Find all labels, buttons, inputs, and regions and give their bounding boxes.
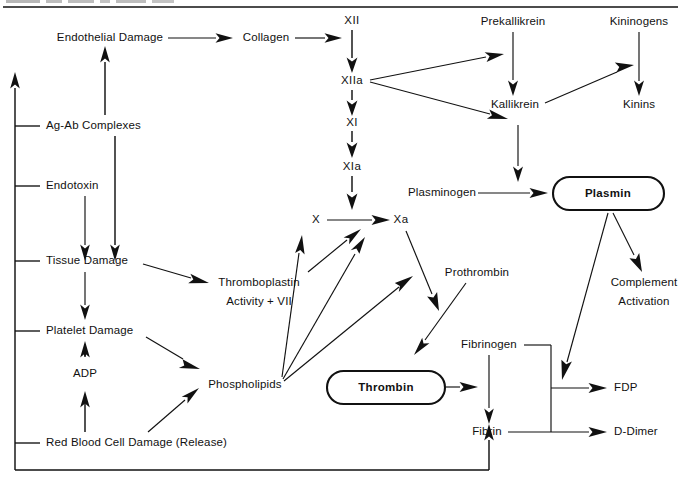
- edge-xi-to-xia: [347, 131, 358, 158]
- node-factor-xi: XI: [346, 116, 358, 128]
- edge-x-to-xa: [327, 215, 390, 225]
- edge-xii-to-xiia: [347, 30, 358, 73]
- node-collagen: Collagen: [243, 31, 290, 43]
- edge-xiia-to-prekallikrein: [370, 52, 504, 80]
- edge-thrombin-to-fibrinogen: [446, 382, 478, 392]
- node-factor-xia: XIa: [343, 160, 362, 172]
- node-endothelial-damage: Endothelial Damage: [57, 31, 163, 43]
- edge-xia-to-xa: [347, 176, 358, 210]
- edge-tissue-to-thromboplastin: [143, 264, 209, 283]
- cascade-diagram-canvas: Ag-Ab Complexes Endotoxin Tissue Damage …: [0, 0, 681, 498]
- node-kinins: Kinins: [623, 98, 655, 110]
- node-thromboplastin-line1: Thromboplastin: [218, 276, 299, 288]
- fdp-ddimer-bus: [508, 345, 607, 437]
- node-fdp: FDP: [614, 381, 638, 393]
- trigger-tick-marks: [15, 126, 40, 443]
- node-phospholipids: Phospholipids: [208, 378, 282, 390]
- edge-fibrinogen-to-fibrin: [484, 355, 494, 424]
- edge-tissue-to-platelet: [80, 272, 90, 320]
- edge-plasmin-to-complement: [613, 213, 642, 272]
- node-fibrin: Fibrin: [472, 425, 502, 437]
- edge-platelet-to-phospholipids: [146, 337, 200, 369]
- edge-kininogens-to-kinins: [634, 32, 644, 96]
- edge-agab-to-endothelial: [100, 46, 110, 115]
- edge-xiia-to-xi: [347, 90, 358, 116]
- edge-plasminogen-to-plasmin: [478, 188, 548, 198]
- edge-phospholipids-to-thrombin: [284, 276, 413, 381]
- edge-kallikrein-to-kininogens: [545, 63, 634, 104]
- node-kininogens: Kininogens: [610, 15, 669, 27]
- node-d-dimer: D-Dimer: [614, 425, 658, 437]
- node-plasminogen: Plasminogen: [408, 186, 476, 198]
- node-factor-xii: XII: [344, 14, 359, 26]
- node-factor-xa: Xa: [394, 213, 409, 225]
- edge-plasmin-to-fdp: [561, 213, 608, 380]
- node-plasmin: Plasmin: [585, 187, 631, 199]
- edge-rbc-to-phospholipids: [148, 388, 199, 432]
- edge-kallikrein-to-plasmin-activation: [513, 125, 523, 182]
- edge-xiia-to-kallikrein: [370, 82, 508, 119]
- node-factor-x: X: [312, 213, 320, 225]
- edge-agab-to-tissue: [110, 136, 120, 261]
- node-kallikrein: Kallikrein: [491, 98, 539, 110]
- node-adp: ADP: [73, 367, 97, 379]
- trigger-label-platelet-damage: Platelet Damage: [46, 324, 133, 336]
- edge-endothelial-to-collagen: [168, 33, 233, 43]
- node-fibrinogen: Fibrinogen: [461, 338, 517, 350]
- edge-xa-to-thrombin: [406, 231, 439, 311]
- node-thromboplastin-line2: Activity + VII: [226, 295, 292, 307]
- top-cropped-text-ghost: [6, 0, 174, 3]
- trigger-label-tissue-damage: Tissue Damage: [46, 254, 128, 266]
- edge-prothrombin-to-thrombin: [414, 283, 466, 355]
- edge-rbc-to-adp: [80, 391, 90, 432]
- trigger-label-ag-ab-complexes: Ag-Ab Complexes: [46, 119, 141, 131]
- node-complement-activation-line1: Complement: [611, 276, 678, 288]
- edge-adp-to-platelet: [80, 341, 90, 358]
- edge-endotoxin-to-tissue: [80, 196, 90, 261]
- edge-collagen-to-xii: [295, 33, 342, 43]
- edge-thromboplastin-to-xa: [308, 229, 361, 272]
- node-prekallikrein: Prekallikrein: [481, 15, 546, 27]
- node-factor-xiia: XIIa: [341, 74, 363, 86]
- trigger-label-red-blood-cell-damage: Red Blood Cell Damage (Release): [46, 436, 227, 448]
- cascade-diagram-figure: Ag-Ab Complexes Endotoxin Tissue Damage …: [0, 0, 681, 498]
- edge-prekallikrein-to-kallikrein: [508, 32, 518, 96]
- node-prothrombin: Prothrombin: [445, 266, 509, 278]
- trigger-label-endotoxin: Endotoxin: [46, 179, 99, 191]
- node-complement-activation-line2: Activation: [618, 295, 669, 307]
- node-thrombin: Thrombin: [358, 381, 413, 393]
- feedback-activation-line: [10, 72, 494, 470]
